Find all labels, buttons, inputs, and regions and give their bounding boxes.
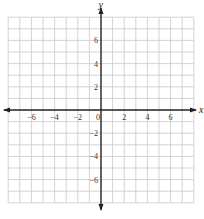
x-tick-label: 2 xyxy=(122,113,126,122)
y-tick-label: 6 xyxy=(94,36,98,45)
y-tick-label: −6 xyxy=(89,176,98,185)
coordinate-plane: −6−4−20246 −6−4−2246 x y xyxy=(0,0,204,219)
y-tick-label: 4 xyxy=(94,60,98,69)
y-tick-label: −2 xyxy=(89,129,98,138)
y-axis-label: y xyxy=(98,0,104,10)
x-tick-label: 6 xyxy=(169,113,173,122)
y-tick-label: 2 xyxy=(94,83,98,92)
x-tick-label: −6 xyxy=(27,113,36,122)
y-axis-down-arrow-icon xyxy=(99,204,104,211)
x-tick-labels: −6−4−20246 xyxy=(27,113,172,122)
x-tick-label: −2 xyxy=(74,113,83,122)
y-tick-label: −4 xyxy=(89,152,98,161)
x-tick-label: 0 xyxy=(96,113,100,122)
x-axis-left-arrow-icon xyxy=(3,108,10,113)
x-tick-label: 4 xyxy=(145,113,149,122)
axes xyxy=(3,7,197,211)
x-tick-label: −4 xyxy=(50,113,59,122)
x-axis-label: x xyxy=(198,104,204,115)
